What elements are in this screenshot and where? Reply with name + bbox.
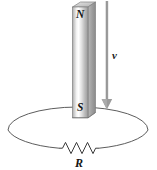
velocity-arrow	[102, 1, 113, 110]
magnet-south-label: S	[77, 101, 83, 113]
physics-figure-magnet-through-loop: v N S R	[0, 0, 157, 170]
resistor-label: R	[74, 156, 83, 170]
magnet-north-label: N	[75, 8, 85, 20]
resistor-symbol	[59, 142, 99, 153]
velocity-label: v	[112, 49, 117, 61]
figure-canvas: v N S R	[0, 0, 157, 170]
